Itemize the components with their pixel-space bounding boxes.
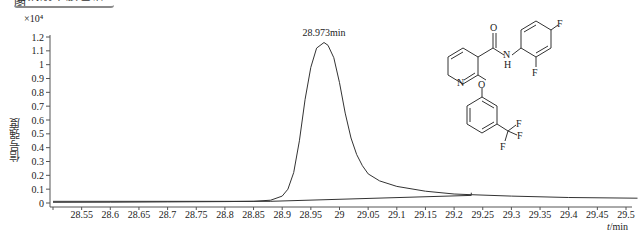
atom-label-F: F (557, 18, 563, 29)
chromatogram-chart: 00.10.20.30.40.50.60.70.80.911.11.2×10⁴2… (0, 0, 639, 235)
y-tick-label: 0.9 (32, 73, 45, 84)
y-tick-label: 0.6 (32, 115, 45, 126)
atom-label-H: H (504, 59, 511, 70)
y-tick-label: 0.4 (32, 142, 45, 153)
x-tick-label: 29.25 (472, 209, 495, 220)
x-tick-label: 28.75 (185, 209, 208, 220)
y-tick-label: 0 (39, 198, 44, 209)
x-tick-label: 29.2 (445, 209, 463, 220)
chromatogram-trace (53, 43, 638, 203)
y-multiplier: ×10⁴ (24, 13, 44, 24)
atom-label-F: F (500, 141, 506, 152)
x-tick-label: 29 (335, 209, 345, 220)
x-tick-label: 29.15 (414, 209, 437, 220)
x-tick-label: 29.45 (586, 209, 609, 220)
chemical-structure-inset: O N H F F N O F F F (448, 18, 563, 152)
x-tick-label: 28.7 (159, 209, 177, 220)
atom-label-O: O (490, 22, 497, 33)
y-tick-label: 0.2 (32, 170, 45, 181)
x-tick-label: 29.3 (503, 209, 521, 220)
y-tick-label: 0.1 (32, 184, 45, 195)
x-tick-label: 28.95 (300, 209, 323, 220)
x-tick-label: 28.6 (102, 209, 120, 220)
y-tick-label: 0.8 (32, 87, 45, 98)
x-tick-label: 28.85 (242, 209, 265, 220)
x-axis-label: t/min (607, 221, 628, 232)
x-tick-label: 28.65 (128, 209, 151, 220)
x-tick-label: 28.8 (216, 209, 234, 220)
y-tick-label: 1.2 (32, 32, 45, 43)
x-tick-label: 29.05 (357, 209, 380, 220)
x-tick-label: 29.4 (560, 209, 578, 220)
y-tick-label: 0.7 (32, 101, 45, 112)
integration-baseline (271, 195, 472, 201)
plot-area: 28.973min (53, 27, 638, 203)
atom-label-N: N (457, 77, 464, 88)
y-tick-label: 1 (39, 59, 44, 70)
atom-label-F: F (516, 118, 522, 129)
x-tick-label: 28.9 (273, 209, 291, 220)
peak-retention-label: 28.973min (302, 27, 345, 38)
x-tick-label: 29.1 (388, 209, 406, 220)
y-tick-label: 0.5 (32, 128, 45, 139)
x-tick-label: 28.55 (70, 209, 93, 220)
atom-label-F: F (532, 67, 538, 78)
x-tick-label: 29.35 (529, 209, 552, 220)
y-tick-label: 0.3 (32, 156, 45, 167)
y-tick-label: 1.1 (32, 45, 45, 56)
atom-label-O: O (478, 79, 485, 90)
x-tick-label: 29.5 (617, 209, 635, 220)
atom-label-F: F (517, 130, 523, 141)
